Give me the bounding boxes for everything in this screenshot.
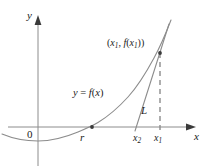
newtons-method-figure: y x 0 r x2 x1 L y = f(x) (x1, f(x1)) <box>0 0 208 168</box>
function-equals: = <box>78 87 89 98</box>
function-equation-label: y = f(x) <box>73 88 103 99</box>
x-axis-label: x <box>194 131 199 142</box>
x-axis <box>8 124 196 131</box>
origin-label: 0 <box>27 129 33 140</box>
root-label: r <box>80 132 84 143</box>
root-point-marker <box>90 125 94 129</box>
y-axis <box>35 15 42 166</box>
point-close-paren: ) <box>141 37 144 48</box>
tangent-line-label: L <box>141 105 147 116</box>
function-curve <box>2 20 171 141</box>
x1-subscript: 1 <box>158 137 162 145</box>
figure-canvas <box>0 0 208 168</box>
function-close-paren: ) <box>100 87 104 98</box>
x2-subscript: 2 <box>137 137 141 145</box>
x2-tick-label: x2 <box>133 133 141 145</box>
point-coordinate-label: (x1, f(x1)) <box>107 38 144 50</box>
x1-tick-label: x1 <box>154 133 162 145</box>
tangency-point-marker <box>158 51 162 55</box>
y-axis-label: y <box>27 10 32 21</box>
